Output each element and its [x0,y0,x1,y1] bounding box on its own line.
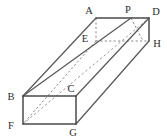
edge-D-C [76,18,149,96]
vertex-label-A: A [85,5,93,16]
vertex-label-G: G [69,127,77,138]
vertex-label-D: D [152,6,160,17]
geometry-figure-container: A P D E H B C F G [0,0,167,140]
vertex-label-E: E [82,33,88,44]
vertex-label-P: P [125,4,131,15]
cuboid-diagram-svg: A P D E H B C F G [0,0,167,140]
edge-H-G [76,41,149,124]
edge-A-B [23,18,96,96]
vertex-label-C: C [67,83,74,94]
edge-E-F-hidden [23,41,96,124]
vertex-label-F: F [8,120,14,131]
edge-P-H-hidden [131,18,143,41]
vertex-label-H: H [153,38,161,49]
edge-B-P [23,18,131,96]
vertex-label-B: B [7,91,14,102]
